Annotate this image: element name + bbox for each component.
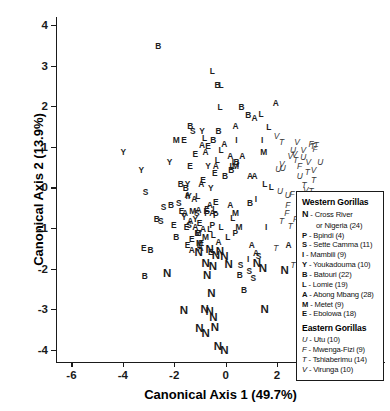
legend-entry-T: T - Tshiaberimu (14) xyxy=(302,355,379,365)
x-tick xyxy=(277,362,278,367)
legend-label: - Ebolowa (18) xyxy=(307,309,356,318)
data-point-N: N xyxy=(206,307,214,319)
legend-label-continuation: or Nigeria (24) xyxy=(302,221,379,231)
data-point-M: M xyxy=(194,229,201,237)
data-point-L: L xyxy=(215,156,220,164)
data-point-U: U xyxy=(275,165,281,173)
data-point-N: N xyxy=(201,329,209,341)
legend-label: - Metet (9) xyxy=(308,300,343,309)
canonical-axes-scatter-figure: -6-4-20246-4-3-2-101234 NNNNNNNNNNNNNNNN… xyxy=(0,0,390,411)
data-point-B: B xyxy=(168,200,174,208)
data-point-A: A xyxy=(273,99,279,107)
data-point-N: N xyxy=(259,264,267,276)
data-point-S: S xyxy=(186,221,192,229)
data-point-L: L xyxy=(266,123,271,131)
data-point-T: T xyxy=(311,176,316,184)
legend-label: - Batouri (22) xyxy=(307,270,351,279)
data-point-E: E xyxy=(204,204,210,212)
y-tick-label: -4 xyxy=(30,344,48,356)
data-point-E: E xyxy=(184,223,190,231)
data-point-T: T xyxy=(288,222,293,230)
data-point-E: E xyxy=(197,219,203,227)
data-point-S: S xyxy=(256,251,262,259)
data-point-B: B xyxy=(173,233,179,241)
x-tick xyxy=(226,362,227,367)
data-point-P: P xyxy=(209,221,215,229)
data-point-Y: Y xyxy=(181,212,187,220)
data-point-I: I xyxy=(261,135,263,143)
data-point-Y: Y xyxy=(139,166,145,174)
data-point-I: I xyxy=(247,254,249,262)
data-point-L: L xyxy=(218,223,223,231)
data-point-Y: Y xyxy=(186,192,192,200)
data-point-N: N xyxy=(214,341,222,353)
data-point-U: U xyxy=(277,187,283,195)
data-point-T: T xyxy=(290,261,295,269)
data-point-N: N xyxy=(261,304,269,316)
y-tick xyxy=(51,228,56,229)
data-point-P: P xyxy=(213,211,219,219)
data-point-F: F xyxy=(289,189,294,197)
y-tick xyxy=(51,309,56,310)
x-axis-label: Canonical Axis 1 (49.7%) xyxy=(56,387,385,402)
data-point-B: B xyxy=(237,271,243,279)
data-point-Y: Y xyxy=(185,180,191,188)
data-point-S: S xyxy=(161,203,167,211)
legend-entry-F: F - Mwenga-Fizi (9) xyxy=(302,345,379,355)
data-point-F: F xyxy=(285,200,290,208)
data-point-S: S xyxy=(158,217,164,225)
data-point-N: N xyxy=(212,251,220,263)
data-point-V: V xyxy=(292,150,298,158)
y-tick xyxy=(51,269,56,270)
data-point-F: F xyxy=(284,208,289,216)
data-point-B: B xyxy=(178,180,184,188)
data-point-Y: Y xyxy=(121,148,127,156)
data-point-A: A xyxy=(187,217,193,225)
data-point-N: N xyxy=(253,258,261,270)
data-point-T: T xyxy=(273,243,278,251)
data-point-Y: Y xyxy=(193,215,199,223)
data-point-A: A xyxy=(213,162,219,170)
data-point-S: S xyxy=(143,188,149,196)
data-point-L: L xyxy=(212,204,217,212)
data-point-B: B xyxy=(222,172,228,180)
data-point-B: B xyxy=(247,199,253,207)
legend-entry-N: N - Cross River xyxy=(302,209,379,221)
legend-entry-U: U - Utu (10) xyxy=(302,335,379,345)
x-tick-label: -4 xyxy=(118,369,128,381)
data-point-M: M xyxy=(196,239,203,247)
legend-label: - Mambili (9) xyxy=(304,250,346,259)
data-point-A: A xyxy=(251,113,257,121)
data-point-E: E xyxy=(181,135,187,143)
data-point-V: V xyxy=(288,152,294,160)
data-point-E: E xyxy=(195,229,201,237)
data-point-N: N xyxy=(207,288,215,300)
data-point-N: N xyxy=(211,322,219,334)
data-point-A: A xyxy=(221,139,227,147)
data-point-U: U xyxy=(317,158,323,166)
data-point-M: M xyxy=(202,233,209,241)
data-point-I: I xyxy=(232,158,234,166)
data-point-A: A xyxy=(200,225,206,233)
y-tick xyxy=(51,350,56,351)
data-point-B: B xyxy=(245,111,251,119)
y-axis-label: Canonical Axis 2 (13.9%) xyxy=(31,70,46,310)
data-point-M: M xyxy=(260,148,267,156)
data-point-U: U xyxy=(300,153,306,161)
data-point-I: I xyxy=(237,160,239,168)
data-point-A: A xyxy=(227,152,233,160)
data-point-V: V xyxy=(274,131,280,139)
data-point-U: U xyxy=(280,164,286,172)
data-point-A: A xyxy=(189,246,195,254)
data-point-P: P xyxy=(233,229,239,237)
data-point-I: I xyxy=(185,192,187,200)
data-point-E: E xyxy=(212,169,218,177)
data-point-N: N xyxy=(194,247,202,259)
data-point-L: L xyxy=(217,103,222,111)
legend-label: - Tshiaberimu (14) xyxy=(307,355,367,364)
data-point-T: T xyxy=(279,217,284,225)
data-point-E: E xyxy=(208,247,214,255)
data-point-A: A xyxy=(251,172,257,180)
data-point-L: L xyxy=(202,134,207,142)
data-point-V: V xyxy=(306,158,312,166)
